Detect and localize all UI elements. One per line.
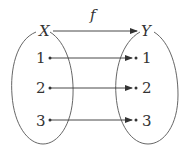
- function-mapping-diagram: X Y f 1 2 3 1 2 3: [0, 0, 191, 154]
- domain-element-3: 3: [36, 112, 46, 130]
- codomain-point-3: [135, 119, 138, 122]
- domain-element-2: 2: [36, 79, 46, 97]
- codomain-point-2: [135, 87, 138, 90]
- codomain-label: Y: [141, 22, 153, 40]
- domain-label: X: [38, 22, 51, 40]
- codomain-element-1: 1: [142, 49, 152, 67]
- codomain-element-3: 3: [142, 112, 152, 130]
- codomain-element-2: 2: [142, 79, 152, 97]
- function-label: f: [89, 6, 98, 24]
- domain-element-1: 1: [36, 49, 46, 67]
- codomain-point-1: [135, 57, 138, 60]
